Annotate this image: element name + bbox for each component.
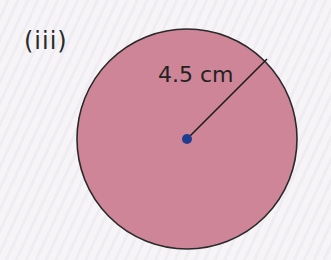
center-point [182, 134, 192, 144]
radius-label: 4.5 cm [158, 62, 234, 87]
circle-diagram [0, 0, 331, 260]
